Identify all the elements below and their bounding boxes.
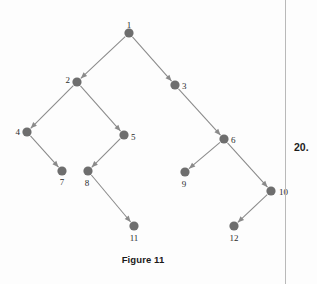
edge-1-2 [81,37,125,79]
tree-diagram: 123456789101112 [0,0,317,284]
tree-node-3 [170,80,179,89]
edge-6-10 [227,143,267,187]
tree-node-12 [229,221,238,230]
edge-3-6 [178,89,220,135]
tree-node-7 [57,166,66,175]
node-label-9: 9 [182,179,187,189]
node-label-2: 2 [66,75,71,85]
edge-4-7 [30,136,58,167]
edges-group [30,37,267,223]
tree-node-5 [119,130,128,139]
node-label-8: 8 [85,178,90,188]
node-label-5: 5 [131,132,136,142]
margin-rule-line [285,0,286,284]
node-label-10: 10 [279,187,289,197]
edge-2-4 [31,86,74,129]
node-label-11: 11 [130,233,139,243]
node-label-4: 4 [16,127,21,137]
figure-caption: Figure 11 [0,254,286,265]
tree-node-9 [180,167,189,176]
edge-8-11 [91,175,130,222]
node-label-6: 6 [231,135,236,145]
tree-node-4 [22,127,31,136]
nodes-group [22,28,275,230]
figure-page: 123456789101112 Figure 11 20. [0,0,317,284]
exercise-number-label: 20. [294,141,309,153]
edge-1-3 [132,37,171,81]
node-label-3: 3 [182,81,187,91]
node-labels-group: 123456789101112 [16,20,289,243]
edge-2-5 [80,86,120,131]
tree-node-2 [72,77,81,86]
node-label-12: 12 [230,233,239,243]
tree-node-10 [266,186,275,195]
node-label-1: 1 [127,20,132,30]
node-label-7: 7 [60,177,65,187]
tree-node-11 [129,221,138,230]
tree-node-6 [219,134,228,143]
tree-node-8 [83,166,92,175]
